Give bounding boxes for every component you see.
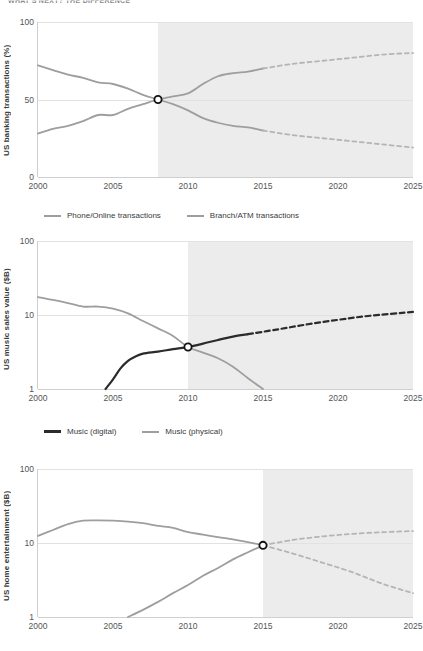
series-line [263, 53, 413, 69]
x-axis-tick-label: 2015 [254, 181, 273, 191]
x-axis-tick-label: 2000 [29, 181, 48, 191]
plot-area-home-entertainment: 110100200020052010201520202025 [37, 469, 413, 617]
y-axis-label: US banking transactions (%) [2, 30, 11, 170]
series-line [128, 545, 263, 617]
x-axis-tick-label: 2025 [404, 621, 423, 631]
legend-label: Branch/ATM transactions [210, 211, 299, 220]
series-layer [38, 241, 413, 389]
legend-item-1[interactable]: Music (physical) [142, 427, 222, 436]
x-axis-tick-label: 2005 [104, 621, 123, 631]
chart-legend-banking: Phone/Online transactions Branch/ATM tra… [44, 211, 299, 220]
series-line [38, 520, 263, 545]
y-axis-tick-label: 100 [20, 17, 34, 27]
plot-area-music: 110100200020052010201520202025 [37, 241, 413, 389]
chart-panel-music: US music sales value ($B) 11010020002005… [0, 231, 423, 443]
x-axis-tick-label: 2025 [404, 393, 423, 403]
series-line [106, 334, 249, 389]
x-axis-tick-label: 2020 [329, 181, 348, 191]
chart-panel-home-entertainment: US home entertainment ($B) 1101002000200… [0, 455, 423, 651]
y-axis-tick-label: 100 [20, 464, 34, 474]
series-layer [38, 469, 413, 617]
series-line [38, 297, 263, 389]
y-axis-tick-label: 10 [25, 538, 34, 548]
y-axis-label: US home entertainment ($B) [2, 471, 11, 621]
x-axis-tick-label: 2015 [254, 621, 273, 631]
crossover-point-marker [259, 542, 266, 549]
legend-label: Phone/Online transactions [67, 211, 161, 220]
series-layer [38, 22, 413, 177]
x-axis-tick-label: 2020 [329, 621, 348, 631]
y-axis-tick-label: 50 [25, 95, 34, 105]
crossover-point-marker [154, 96, 161, 103]
series-line [38, 69, 263, 134]
series-line [263, 131, 413, 148]
x-axis-tick-label: 2000 [29, 393, 48, 403]
chart-panel-banking: US banking transactions (%) 050100200020… [0, 8, 423, 223]
legend-label: Music (digital) [67, 427, 116, 436]
x-axis-tick-label: 2010 [179, 393, 198, 403]
y-axis-tick-label: 10 [25, 310, 34, 320]
y-axis-label: US music sales value ($B) [2, 249, 11, 389]
x-axis-tick-label: 2025 [404, 181, 423, 191]
x-axis-tick-label: 2020 [329, 393, 348, 403]
crossover-point-marker [184, 343, 191, 350]
plot-area-banking: 050100200020052010201520202025 [37, 22, 413, 177]
y-gridline [38, 177, 413, 178]
legend-item-0[interactable]: Music (digital) [44, 427, 116, 436]
legend-item-1[interactable]: Branch/ATM transactions [187, 211, 299, 220]
legend-swatch-icon [44, 430, 61, 433]
series-line [38, 65, 263, 130]
legend-swatch-icon [44, 215, 61, 217]
series-line [248, 312, 413, 334]
infographic-page: WHAT'S NEXT? THE DIFFERENCE US banking t… [0, 0, 423, 651]
page-title: WHAT'S NEXT? THE DIFFERENCE [8, 0, 130, 4]
series-line [263, 531, 413, 545]
legend-swatch-icon [142, 431, 159, 433]
legend-label: Music (physical) [165, 427, 222, 436]
x-axis-tick-label: 2005 [104, 393, 123, 403]
y-axis-tick-label: 100 [20, 236, 34, 246]
x-axis-tick-label: 2005 [104, 181, 123, 191]
y-gridline [38, 617, 413, 618]
x-axis-tick-label: 2010 [179, 621, 198, 631]
y-gridline [38, 389, 413, 390]
legend-swatch-icon [187, 215, 204, 217]
legend-item-0[interactable]: Phone/Online transactions [44, 211, 161, 220]
series-line [263, 545, 413, 593]
x-axis-tick-label: 2015 [254, 393, 273, 403]
chart-legend-music: Music (digital) Music (physical) [44, 427, 223, 436]
x-axis-tick-label: 2000 [29, 621, 48, 631]
x-axis-tick-label: 2010 [179, 181, 198, 191]
